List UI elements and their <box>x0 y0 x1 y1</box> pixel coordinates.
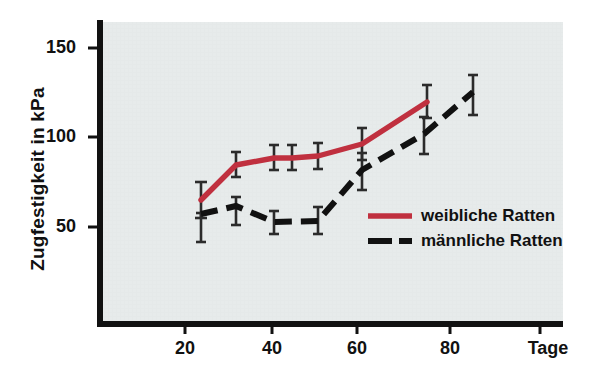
y-axis-title: Zugfestigkeit in kPa <box>27 79 49 279</box>
x-axis-spine <box>97 321 563 327</box>
legend-label-weibliche-ratten: weibliche Ratten <box>421 206 555 226</box>
y-tick-label-50: 50 <box>16 216 76 237</box>
chart-figure: Zugfestigkeit in kPa 150 100 50 20 40 60… <box>0 0 604 370</box>
plot-texture <box>101 22 563 322</box>
legend-label-maennliche-ratten: männliche Ratten <box>421 231 563 251</box>
x-tick-label-20: 20 <box>155 338 215 359</box>
x-tick-label-60: 60 <box>327 338 387 359</box>
x-tick-label-40: 40 <box>242 338 302 359</box>
y-tick-label-150: 150 <box>16 37 76 58</box>
x-axis-title: Tage <box>512 338 584 359</box>
x-tick-label-80: 80 <box>420 338 480 359</box>
chart-canvas <box>0 0 604 370</box>
y-axis-spine <box>97 20 103 324</box>
y-tick-label-100: 100 <box>16 126 76 147</box>
